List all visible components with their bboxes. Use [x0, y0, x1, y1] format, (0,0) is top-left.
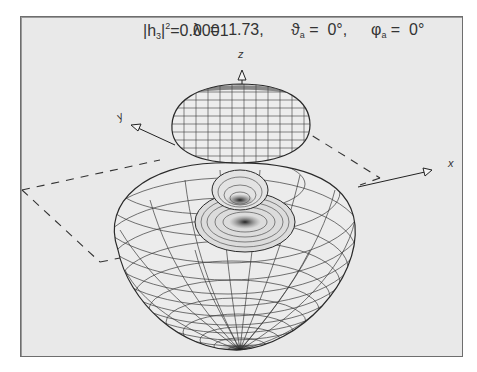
upper-lobe [172, 84, 310, 163]
x-axis-label: x [448, 157, 454, 169]
z-axis-label: z [238, 48, 244, 60]
z-axis [238, 70, 246, 84]
y-axis [131, 124, 175, 145]
